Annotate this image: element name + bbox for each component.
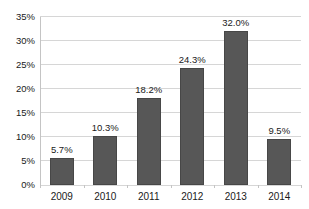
y-tick-label: 20%	[8, 83, 35, 95]
bar-2013	[224, 31, 248, 185]
bar-2011	[137, 98, 161, 185]
x-axis-tick	[301, 185, 302, 188]
y-tick-label: 15%	[8, 107, 35, 119]
bar-value-label: 10.3%	[80, 122, 130, 134]
y-axis-line	[40, 17, 41, 185]
bar-value-label: 24.3%	[167, 54, 217, 66]
gridline	[40, 16, 301, 17]
bar-value-label: 9.5%	[254, 125, 304, 137]
y-tick-label: 10%	[8, 131, 35, 143]
gridline	[40, 40, 301, 41]
x-axis-tick	[84, 185, 85, 188]
x-axis-tick	[258, 185, 259, 188]
x-tick-label: 2013	[211, 191, 261, 203]
gridline	[40, 112, 301, 113]
bar-2009	[50, 158, 74, 185]
bar-value-label: 18.2%	[124, 84, 174, 96]
x-axis-tick	[40, 185, 41, 188]
x-axis-tick	[171, 185, 172, 188]
y-tick-label: 0%	[8, 179, 35, 191]
x-tick-label: 2014	[254, 191, 304, 203]
bar-2010	[93, 136, 117, 185]
bar-value-label: 32.0%	[211, 17, 261, 29]
x-tick-label: 2009	[37, 191, 87, 203]
y-tick-label: 30%	[8, 35, 35, 47]
gridline	[40, 160, 301, 161]
x-tick-label: 2010	[80, 191, 130, 203]
y-tick-label: 35%	[8, 11, 35, 23]
x-axis-tick	[127, 185, 128, 188]
x-axis-tick	[214, 185, 215, 188]
x-tick-label: 2012	[167, 191, 217, 203]
bar-chart: 0%5%10%15%20%25%30%35% 20092010201120122…	[0, 0, 309, 209]
bar-value-label: 5.7%	[37, 144, 87, 156]
x-tick-label: 2011	[124, 191, 174, 203]
plot-area	[40, 17, 301, 185]
bar-2012	[180, 68, 204, 185]
y-tick-label: 25%	[8, 59, 35, 71]
bar-2014	[267, 139, 291, 185]
y-tick-label: 5%	[8, 155, 35, 167]
